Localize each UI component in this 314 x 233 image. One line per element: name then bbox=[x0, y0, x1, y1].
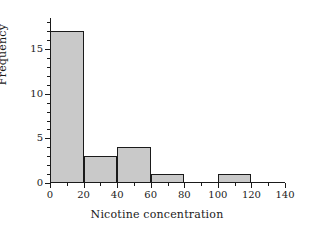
x-tick-label: 0 bbox=[47, 190, 53, 200]
y-tick-minor bbox=[47, 103, 50, 104]
x-axis-title: Nicotine concentration bbox=[0, 208, 314, 221]
x-tick-label: 40 bbox=[111, 190, 124, 200]
y-tick-label: 5 bbox=[37, 133, 43, 143]
plot-area: 051015 020406080100120140 bbox=[50, 18, 285, 183]
x-tick-minor bbox=[201, 183, 202, 186]
y-tick-minor bbox=[47, 67, 50, 68]
x-tick-label: 20 bbox=[77, 190, 90, 200]
y-tick-label: 10 bbox=[30, 89, 43, 99]
histogram-figure: 051015 020406080100120140 Nicotine conce… bbox=[0, 0, 314, 233]
x-tick-label: 120 bbox=[242, 190, 261, 200]
y-tick-minor bbox=[47, 165, 50, 166]
y-axis-title: Frequency bbox=[0, 0, 9, 115]
x-tick-minor bbox=[134, 183, 135, 186]
x-tick-label: 140 bbox=[275, 190, 294, 200]
y-tick-minor bbox=[47, 58, 50, 59]
x-tick-major bbox=[285, 183, 286, 188]
x-tick-label: 60 bbox=[144, 190, 157, 200]
histogram-bar bbox=[84, 156, 118, 183]
x-tick-minor bbox=[67, 183, 68, 186]
x-tick-major bbox=[151, 183, 152, 188]
y-tick-minor bbox=[47, 112, 50, 113]
x-tick-label: 80 bbox=[178, 190, 191, 200]
histogram-bar bbox=[50, 31, 84, 183]
y-tick-minor bbox=[47, 31, 50, 32]
x-tick-minor bbox=[100, 183, 101, 186]
y-tick-minor bbox=[47, 147, 50, 148]
y-tick-minor bbox=[47, 156, 50, 157]
x-tick-major bbox=[251, 183, 252, 188]
x-tick-label: 100 bbox=[208, 190, 227, 200]
histogram-bar bbox=[218, 174, 252, 183]
x-tick-major bbox=[50, 183, 51, 188]
x-tick-minor bbox=[268, 183, 269, 186]
y-tick-minor bbox=[47, 85, 50, 86]
y-tick-minor bbox=[47, 76, 50, 77]
x-tick-major bbox=[84, 183, 85, 188]
histogram-bar bbox=[151, 174, 185, 183]
x-tick-major bbox=[184, 183, 185, 188]
y-tick-major bbox=[45, 138, 50, 139]
y-tick-minor bbox=[47, 129, 50, 130]
y-tick-label: 15 bbox=[30, 44, 43, 54]
y-tick-minor bbox=[47, 174, 50, 175]
x-tick-minor bbox=[235, 183, 236, 186]
x-tick-minor bbox=[168, 183, 169, 186]
y-tick-major bbox=[45, 49, 50, 50]
histogram-bar bbox=[117, 147, 151, 183]
y-tick-minor bbox=[47, 22, 50, 23]
x-tick-major bbox=[218, 183, 219, 188]
y-tick-label: 0 bbox=[37, 178, 43, 188]
x-tick-major bbox=[117, 183, 118, 188]
y-tick-minor bbox=[47, 121, 50, 122]
y-tick-minor bbox=[47, 40, 50, 41]
y-tick-major bbox=[45, 94, 50, 95]
